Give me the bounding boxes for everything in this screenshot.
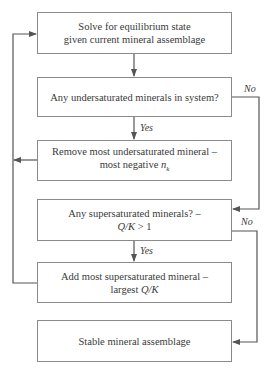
text-suffix: > 1 — [135, 221, 151, 232]
edge-label-under-no: No — [244, 83, 256, 94]
node-text-line: Stable mineral assemblage — [79, 335, 191, 348]
math-variable: Q/K — [118, 221, 136, 232]
node-remove-mineral: Remove most undersaturated mineral – mos… — [37, 140, 232, 181]
node-check-supersaturated: Any supersaturated minerals? – Q/K > 1 — [37, 199, 232, 241]
node-add-mineral: Add most supersaturated mineral – larges… — [37, 262, 232, 303]
node-text-line: Any undersaturated minerals in system? — [50, 91, 219, 104]
connector-lines — [0, 0, 268, 374]
node-text-line: Remove most undersaturated mineral – — [52, 145, 217, 158]
node-text-line: Add most supersaturated mineral – — [61, 270, 208, 283]
text-prefix: most negative — [100, 159, 161, 170]
arrow-add-loop-to-solve — [13, 34, 37, 283]
edge-label-under-yes: Yes — [140, 122, 153, 133]
edge-label-super-yes: Yes — [140, 245, 153, 256]
node-check-undersaturated: Any undersaturated minerals in system? — [37, 77, 232, 117]
node-solve-equilibrium: Solve for equilibrium state given curren… — [37, 12, 232, 54]
edge-label-super-no: No — [241, 216, 253, 227]
node-text-line: Q/K > 1 — [118, 220, 152, 233]
math-subscript: k — [166, 165, 169, 173]
arrow-under-no — [232, 97, 259, 209]
text-prefix: largest — [111, 284, 141, 295]
node-text-line: given current mineral assemblage — [64, 33, 205, 46]
arrow-super-no — [232, 231, 257, 342]
node-text-line: Any supersaturated minerals? – — [68, 207, 201, 220]
node-text-line: Solve for equilibrium state — [78, 20, 190, 33]
node-text-line: most negative nk — [100, 158, 170, 176]
node-stable-assemblage: Stable mineral assemblage — [37, 320, 232, 362]
node-text-line: largest Q/K — [111, 283, 159, 296]
math-variable: Q/K — [141, 284, 159, 295]
